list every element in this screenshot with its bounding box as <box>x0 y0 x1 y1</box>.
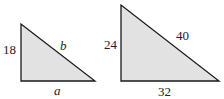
right-triangle-leg-label: 24 <box>104 37 118 52</box>
similar-triangles-diagram: 18 b a 24 40 32 <box>0 0 224 99</box>
left-triangle-leg-label: 18 <box>3 42 16 57</box>
right-triangle-hypotenuse-label: 40 <box>176 28 189 43</box>
right-triangle-shape <box>121 5 219 81</box>
left-triangle: 18 b a <box>3 24 95 98</box>
left-triangle-shape <box>21 24 95 81</box>
right-triangle-base-label: 32 <box>158 84 171 99</box>
right-triangle: 24 40 32 <box>104 5 219 99</box>
left-triangle-base-label: a <box>54 83 61 98</box>
left-triangle-hypotenuse-label: b <box>60 38 67 53</box>
